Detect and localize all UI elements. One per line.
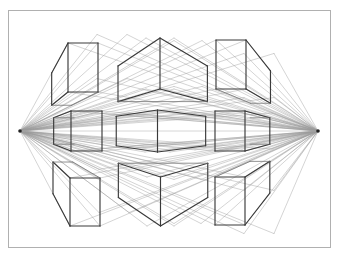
perspective-drawing-canvas [0,0,339,262]
vanishing-point-right [316,129,320,133]
vanishing-point-left [18,129,22,133]
perspective-diagram [0,0,339,262]
